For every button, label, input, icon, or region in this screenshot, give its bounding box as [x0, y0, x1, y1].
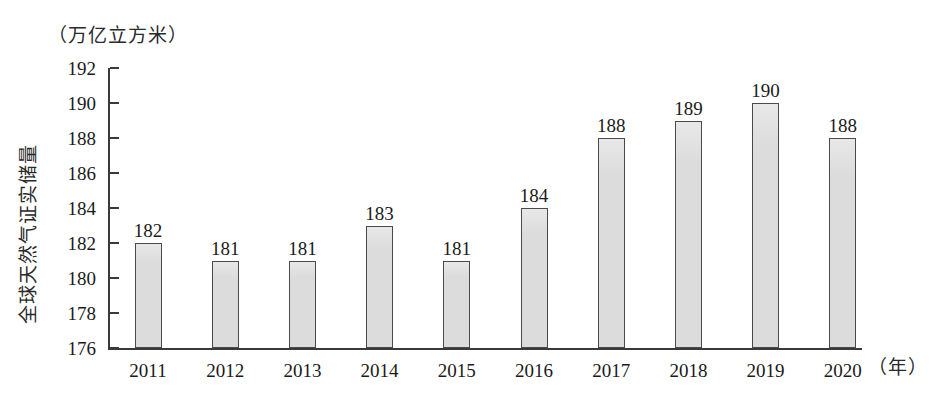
y-axis-tick-label: 178	[68, 304, 97, 323]
y-axis-tick-label: 182	[68, 234, 97, 253]
bar-slot: 1812013	[289, 68, 316, 350]
bar[interactable]: 190	[752, 103, 779, 348]
bar-value-label: 181	[443, 239, 472, 258]
bar-value-label: 190	[751, 81, 780, 100]
y-axis-line	[108, 68, 110, 350]
bar-slot: 1892018	[675, 68, 702, 350]
bar-value-label: 188	[597, 116, 626, 135]
bar-value-label: 182	[134, 221, 163, 240]
y-axis-tick-mark	[110, 102, 119, 104]
bar-slot: 1822011	[135, 68, 162, 350]
bar[interactable]: 188	[829, 138, 856, 348]
bar-slot: 1842016	[521, 68, 548, 350]
y-axis-tick: 190	[108, 102, 119, 104]
x-axis-category-label: 2012	[206, 361, 244, 380]
y-axis-tick-mark	[110, 137, 119, 139]
y-axis-title-text: 全球天然气证实储量	[13, 143, 40, 323]
x-axis-category-label: 2011	[129, 361, 166, 380]
bar-chart: （万亿立方米） 全球天然气证实储量 1761781801821841861881…	[0, 0, 940, 405]
y-axis-tick: 192	[108, 67, 119, 69]
bar-value-label: 181	[211, 239, 240, 258]
y-axis-tick-mark	[110, 312, 119, 314]
bar[interactable]: 181	[443, 261, 470, 349]
bar-value-label: 183	[365, 204, 394, 223]
y-axis-tick-label: 184	[68, 199, 97, 218]
y-axis-tick-mark	[110, 207, 119, 209]
y-axis-tick: 186	[108, 172, 119, 174]
x-axis-category-label: 2015	[438, 361, 476, 380]
y-axis-tick-label: 190	[68, 94, 97, 113]
y-axis-tick-mark	[110, 67, 119, 69]
bar-value-label: 188	[829, 116, 858, 135]
x-axis-category-label: 2014	[361, 361, 399, 380]
x-axis-category-label: 2018	[669, 361, 707, 380]
bar[interactable]: 181	[212, 261, 239, 349]
y-axis-tick-mark	[110, 242, 119, 244]
bar-value-label: 184	[520, 186, 549, 205]
bar-slot: 1812012	[212, 68, 239, 350]
bar[interactable]: 188	[598, 138, 625, 348]
y-axis-tick-label: 188	[68, 129, 97, 148]
y-axis-tick-mark	[110, 172, 119, 174]
y-axis-unit-caption: （万亿立方米）	[48, 20, 188, 47]
bar-slot: 1812015	[443, 68, 470, 350]
y-axis-title: 全球天然气证实储量	[10, 118, 42, 348]
x-axis-unit-label: （年）	[868, 352, 928, 379]
bar-value-label: 181	[288, 239, 317, 258]
bar-slot: 1902019	[752, 68, 779, 350]
bar[interactable]: 183	[366, 226, 393, 349]
y-axis-tick: 176	[108, 347, 119, 349]
y-axis-tick-mark	[110, 277, 119, 279]
plot-area: 176178180182184186188190192 182201118120…	[108, 68, 862, 350]
bar[interactable]: 184	[521, 208, 548, 348]
y-axis-tick: 178	[108, 312, 119, 314]
y-axis-tick: 188	[108, 137, 119, 139]
bar[interactable]: 189	[675, 121, 702, 349]
bar-slot: 1882017	[598, 68, 625, 350]
y-axis-tick-label: 192	[68, 59, 97, 78]
y-axis-tick-label: 180	[68, 269, 97, 288]
x-axis-category-label: 2017	[592, 361, 630, 380]
x-axis-category-label: 2019	[747, 361, 785, 380]
y-axis-tick-label: 176	[68, 339, 97, 358]
y-axis-tick: 182	[108, 242, 119, 244]
bar-value-label: 189	[674, 99, 703, 118]
y-axis-tick-label: 186	[68, 164, 97, 183]
y-axis-tick: 184	[108, 207, 119, 209]
x-axis-category-label: 2013	[283, 361, 321, 380]
x-axis-category-label: 2020	[824, 361, 862, 380]
bar-slot: 1832014	[366, 68, 393, 350]
bar-slot: 1882020	[829, 68, 856, 350]
y-axis-tick-mark	[110, 347, 119, 349]
bar[interactable]: 181	[289, 261, 316, 349]
y-axis-tick: 180	[108, 277, 119, 279]
x-axis-category-label: 2016	[515, 361, 553, 380]
bar[interactable]: 182	[135, 243, 162, 348]
